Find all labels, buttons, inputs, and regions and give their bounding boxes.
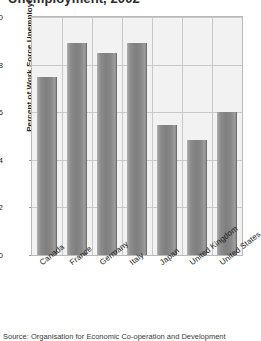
x-label-japan: Japan	[158, 246, 181, 267]
x-label-france: France	[68, 244, 94, 267]
x-label-canada: Canada	[38, 242, 66, 267]
source-note: Source: Organisation for Economic Co-ope…	[3, 332, 226, 341]
x-label-italy: Italy	[128, 251, 145, 267]
x-label-germany: Germany	[98, 239, 130, 267]
